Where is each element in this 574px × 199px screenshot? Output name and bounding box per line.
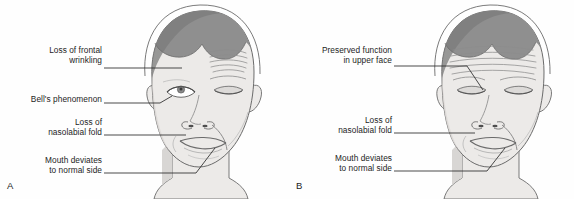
label-bells-phenomenon: Bell's phenomenon [5,94,102,104]
panel-a: Loss of frontal wrinkling Bell's phenome… [0,0,287,199]
panel-letter-b: B [296,180,302,191]
label-loss-of-frontal-wrinkling: Loss of frontal wrinkling [18,45,102,65]
nostril-hole-left [478,125,483,128]
nostril-hole-left [188,125,193,128]
panel-b: Preserved function in upper face Loss of… [287,0,574,199]
label-mouth-deviates-to-normal-side: Mouth deviates to normal side [15,155,102,175]
label-loss-of-nasolabial-fold: Loss of nasolabial fold [18,117,102,137]
nostril-hole-right [492,125,497,128]
label-mouth-deviates-to-normal-side: Mouth deviates to normal side [305,153,392,173]
nostril-hole-right [202,125,207,128]
label-preserved-function-in-upper-face: Preserved function in upper face [297,45,392,65]
label-loss-of-nasolabial-fold: Loss of nasolabial fold [308,115,392,135]
facial-palsy-figure: Loss of frontal wrinkling Bell's phenome… [0,0,574,199]
panel-letter-a: A [7,180,13,191]
